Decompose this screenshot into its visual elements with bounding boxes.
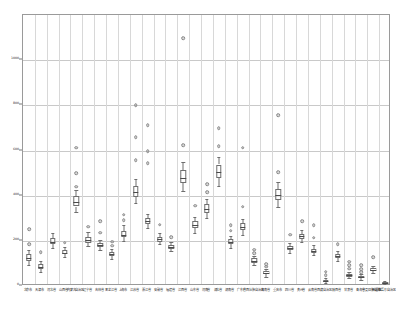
outlier-point (158, 223, 162, 227)
box-plot-18[interactable] (237, 15, 249, 284)
outlier-point (288, 233, 292, 237)
box-plot-7[interactable] (106, 15, 118, 284)
box-plot-14[interactable] (189, 15, 201, 284)
outlier-point (122, 218, 126, 222)
median-line (38, 267, 43, 268)
outlier-point (300, 219, 304, 223)
outlier-point (146, 161, 150, 165)
x-tick-label: 西藏自治区 (317, 289, 332, 292)
median-line (133, 192, 138, 193)
cap-upper (371, 266, 374, 267)
box-plot-5[interactable] (82, 15, 94, 284)
cap-lower (182, 191, 185, 192)
cap-upper (217, 157, 220, 158)
box-plot-1[interactable] (35, 15, 47, 284)
box-plot-23[interactable] (296, 15, 308, 284)
box-plot-25[interactable] (320, 15, 332, 284)
box-plot-22[interactable] (284, 15, 296, 284)
outlier-point (181, 143, 185, 147)
median-line (26, 258, 31, 259)
x-tick-label: 吉林省 (95, 289, 104, 292)
cap-lower (253, 265, 256, 266)
outlier-point (205, 182, 209, 186)
cap-lower (348, 278, 351, 279)
box-plot-20[interactable] (260, 15, 272, 284)
x-tick-label: 辽宁省 (83, 289, 92, 292)
outlier-point (86, 225, 90, 229)
box-plot-2[interactable] (47, 15, 59, 284)
cap-lower (205, 218, 208, 219)
cap-lower (371, 273, 374, 274)
box-plot-6[interactable] (94, 15, 106, 284)
median-line (287, 248, 292, 249)
box-plot-28[interactable] (355, 15, 367, 284)
outlier-point (110, 240, 114, 244)
box-plot-27[interactable] (344, 15, 356, 284)
x-tick-label: 河北省 (47, 289, 56, 292)
median-line (181, 178, 186, 179)
x-tick-label: 上海市 (119, 289, 128, 292)
box-plot-13[interactable] (177, 15, 189, 284)
cap-upper (75, 190, 78, 191)
box-plot-17[interactable] (225, 15, 237, 284)
box-plot-15[interactable] (201, 15, 213, 284)
median-line (169, 247, 174, 248)
box-plot-3[interactable] (59, 15, 71, 284)
cap-upper (146, 214, 149, 215)
x-tick-label: 天津市 (35, 289, 44, 292)
outlier-point (217, 126, 221, 130)
whisker-lower (278, 200, 279, 207)
whisker-upper (278, 182, 279, 189)
cap-lower (158, 244, 161, 245)
box-plot-16[interactable] (213, 15, 225, 284)
cap-upper (27, 250, 30, 251)
cap-upper (51, 233, 54, 234)
cap-lower (146, 228, 149, 229)
whisker-upper (218, 157, 219, 165)
box-plot-21[interactable] (272, 15, 284, 284)
x-tick-label: 贵州省 (297, 289, 306, 292)
cap-upper (348, 272, 351, 273)
box-plot-12[interactable] (165, 15, 177, 284)
cap-upper (265, 269, 268, 270)
median-line (323, 281, 328, 282)
box-plot-8[interactable] (118, 15, 130, 284)
y-tick-label: 0 (17, 283, 19, 286)
x-tick-label: 陕西省 (332, 289, 341, 292)
median-line (145, 221, 150, 222)
outlier-point (229, 229, 233, 233)
box-plot-10[interactable] (142, 15, 154, 284)
box-plot-24[interactable] (308, 15, 320, 284)
outlier-point (253, 251, 257, 255)
box-plot-4[interactable] (70, 15, 82, 284)
box-plot-26[interactable] (332, 15, 344, 284)
median-line (50, 242, 55, 243)
median-line (299, 236, 304, 237)
outlier-point (193, 204, 197, 208)
median-line (382, 283, 387, 284)
cap-upper (39, 261, 42, 262)
outlier-point (371, 255, 375, 259)
cap-lower (110, 259, 113, 260)
median-line (275, 195, 280, 196)
outlier-point (336, 243, 340, 247)
cap-upper (134, 179, 137, 180)
box-plot-29[interactable] (367, 15, 379, 284)
outlier-point (276, 113, 280, 117)
outlier-point (98, 231, 102, 235)
box-plot-19[interactable] (249, 15, 261, 284)
x-tick-label: 河南省 (202, 289, 211, 292)
cap-lower (193, 233, 196, 234)
whisker-lower (218, 178, 219, 186)
box-plot-0[interactable] (23, 15, 35, 284)
box-plot-11[interactable] (154, 15, 166, 284)
x-tick-label: 北京市 (24, 289, 33, 292)
outlier-point (146, 150, 150, 154)
box-plot-9[interactable] (130, 15, 142, 284)
median-line (228, 242, 233, 243)
outlier-point (312, 236, 316, 240)
cap-upper (87, 232, 90, 233)
cap-lower (122, 241, 125, 242)
box-plot-30[interactable] (379, 15, 391, 284)
cap-upper (182, 162, 185, 163)
